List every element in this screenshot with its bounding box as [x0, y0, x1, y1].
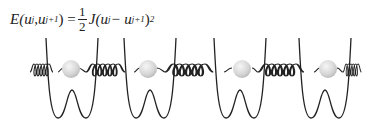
eq-fraction: 1 2 — [78, 6, 87, 33]
eq-rhs-a: J(u — [89, 11, 108, 28]
eq-frac-den: 2 — [79, 21, 86, 33]
eq-lhs-close: ) = — [59, 11, 76, 28]
spring-2 — [157, 64, 232, 76]
double-well-3 — [214, 38, 266, 118]
eq-rhs-sub2: j+1 — [132, 14, 145, 24]
mass-4 — [319, 60, 337, 78]
mass-1 — [62, 60, 80, 78]
double-well-1 — [46, 38, 98, 118]
mass-2 — [139, 60, 157, 78]
eq-lhs: E(u — [10, 11, 32, 28]
eq-lhs-sub2: j+1 — [45, 14, 58, 24]
eq-rhs-sup: 2 — [150, 14, 155, 24]
eq-frac-num: 1 — [79, 6, 86, 18]
double-well-potentials — [46, 38, 351, 118]
double-well-2 — [124, 38, 176, 118]
double-well-chain-diagram — [0, 36, 380, 122]
energy-equation: E(uj,uj+1) = 1 2 J(uj − uj+1)2 — [10, 2, 154, 36]
eq-lhs-mid: ,u — [34, 11, 45, 28]
mass-3 — [233, 60, 251, 78]
eq-rhs-mid: − u — [110, 11, 131, 28]
spring-1 — [78, 64, 140, 76]
double-well-4 — [299, 38, 351, 118]
spring-3 — [252, 64, 320, 76]
